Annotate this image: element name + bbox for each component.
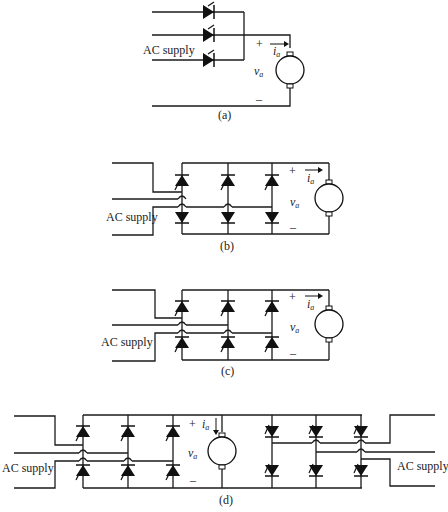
svg-text:–: –	[189, 473, 197, 487]
circuit-d: AC supply AC supply + ia va – (d)	[2, 415, 448, 507]
caption-c: (c)	[221, 364, 234, 378]
svg-text:+: +	[289, 164, 296, 178]
svg-text:+: +	[189, 417, 196, 431]
circuit-a: AC supply + ia va – (a)	[143, 2, 304, 122]
circuit-b: AC supply + ia va – (b)	[106, 163, 343, 253]
thyristor-a2	[203, 25, 214, 42]
current-label-d: ia	[202, 417, 209, 432]
current-label-c: ia	[307, 297, 314, 312]
ac-supply-label-d-left: AC supply	[2, 461, 54, 475]
svg-text:+: +	[289, 290, 296, 304]
ac-supply-label-d-right: AC supply	[397, 459, 448, 473]
caption-d: (d)	[219, 493, 233, 507]
svg-text:–: –	[255, 92, 263, 106]
current-label-b: ia	[307, 171, 314, 186]
ac-supply-label-b: AC supply	[106, 210, 158, 224]
voltage-label-a: va	[254, 64, 263, 79]
converter-circuit-figure: AC supply + ia va – (a) AC	[0, 0, 448, 512]
svg-text:–: –	[289, 346, 297, 360]
ac-supply-label-a: AC supply	[143, 43, 195, 57]
voltage-label-d: va	[188, 446, 197, 461]
voltage-label-c: va	[290, 320, 299, 335]
svg-text:+: +	[256, 37, 263, 51]
current-label-a: ia	[273, 44, 280, 59]
ac-supply-label-c: AC supply	[101, 335, 153, 349]
svg-text:–: –	[289, 220, 297, 234]
voltage-label-b: va	[290, 195, 299, 210]
caption-b: (b)	[220, 239, 234, 253]
caption-a: (a)	[218, 108, 231, 122]
thyristor-a3	[203, 50, 214, 67]
thyristor-a1	[203, 2, 214, 19]
circuit-c: AC supply + ia va – (c)	[101, 290, 343, 378]
